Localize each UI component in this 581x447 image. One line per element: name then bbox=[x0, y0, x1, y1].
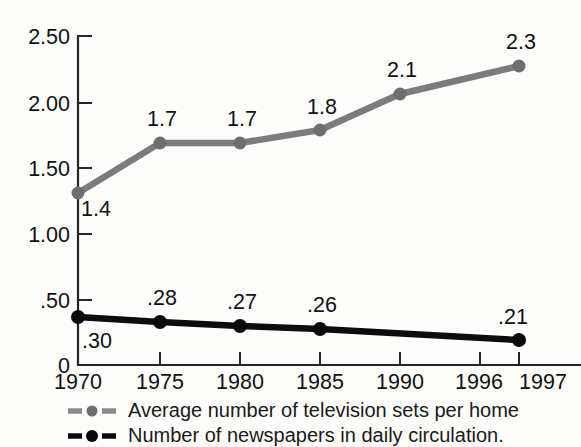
data-point-newspapers bbox=[71, 310, 85, 324]
y-axis-ticks bbox=[78, 36, 92, 300]
data-labels-television: 1.4 1.7 1.7 1.8 2.1 2.3 bbox=[81, 30, 536, 221]
x-tick-label: 1997 bbox=[519, 370, 567, 394]
x-axis-tick-labels: 1970 1975 1980 1985 1990 1996 1997 bbox=[54, 370, 567, 394]
data-point-television bbox=[154, 137, 167, 150]
data-label-television: 1.7 bbox=[227, 107, 257, 131]
data-point-television bbox=[394, 88, 407, 101]
y-tick-label: .50 bbox=[40, 289, 70, 313]
data-label-newspapers: .30 bbox=[82, 329, 112, 353]
series-line-newspapers bbox=[78, 317, 519, 340]
series-newspapers bbox=[71, 310, 526, 347]
legend-item-newspapers[interactable]: Number of newspapers in daily circulatio… bbox=[68, 424, 504, 446]
data-label-newspapers: .21 bbox=[498, 305, 528, 329]
x-tick-label: 1970 bbox=[54, 370, 102, 394]
x-axis-ticks bbox=[160, 352, 519, 365]
data-point-television bbox=[314, 124, 327, 137]
data-point-television bbox=[234, 137, 247, 150]
legend-item-television[interactable]: Average number of television sets per ho… bbox=[68, 399, 519, 421]
x-tick-label: 1985 bbox=[296, 370, 344, 394]
data-point-newspapers bbox=[153, 315, 167, 329]
data-point-newspapers bbox=[233, 319, 247, 333]
y-tick-label: 2.00 bbox=[28, 92, 70, 116]
data-point-television bbox=[513, 60, 526, 73]
data-label-newspapers: .28 bbox=[147, 286, 177, 310]
x-tick-label: 1975 bbox=[136, 370, 184, 394]
y-tick-label: 1.00 bbox=[28, 223, 70, 247]
x-tick-label: 1980 bbox=[216, 370, 264, 394]
y-axis-tick-labels: 2.50 2.00 1.50 1.00 .50 0 bbox=[28, 25, 70, 378]
data-label-television: 1.7 bbox=[147, 107, 177, 131]
chart-canvas: 2.50 2.00 1.50 1.00 .50 0 1970 1975 1980… bbox=[0, 0, 581, 447]
legend-label-newspapers: Number of newspapers in daily circulatio… bbox=[128, 424, 504, 446]
x-tick-label: 1990 bbox=[376, 370, 424, 394]
legend-dot-icon bbox=[86, 430, 98, 442]
data-point-newspapers bbox=[512, 333, 526, 347]
series-line-television bbox=[78, 66, 519, 193]
y-tick-label: 2.50 bbox=[28, 25, 70, 49]
data-label-newspapers: .27 bbox=[227, 290, 257, 314]
data-label-television: 1.8 bbox=[307, 95, 337, 119]
chart-legend: Average number of television sets per ho… bbox=[68, 399, 519, 446]
data-label-television: 2.3 bbox=[506, 30, 536, 54]
series-television-sets bbox=[72, 60, 526, 200]
x-tick-label: 1996 bbox=[455, 370, 503, 394]
data-label-television: 2.1 bbox=[387, 58, 417, 82]
legend-dot-icon bbox=[87, 406, 98, 417]
line-chart-figure: 2.50 2.00 1.50 1.00 .50 0 1970 1975 1980… bbox=[0, 0, 581, 447]
data-label-newspapers: .26 bbox=[307, 293, 337, 317]
y-tick-label: 1.50 bbox=[28, 157, 70, 181]
legend-label-television: Average number of television sets per ho… bbox=[128, 399, 519, 421]
data-label-television: 1.4 bbox=[81, 197, 111, 221]
data-point-newspapers bbox=[313, 322, 327, 336]
